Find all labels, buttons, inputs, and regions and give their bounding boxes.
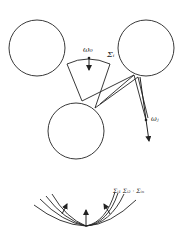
- wavefront-curves: [34, 192, 136, 226]
- label-sigma-series: Σᵢ₁ Σᵢ₂ · Σᵢₙ: [113, 188, 144, 194]
- circle-right-top: [118, 20, 174, 76]
- label-omega0: ω₀: [83, 46, 93, 54]
- normal-arrow-right: [104, 204, 110, 214]
- circle-bottom-center: [48, 103, 104, 159]
- label-omega-j: ωⱼ: [151, 116, 159, 123]
- omegaj-dot: [145, 119, 148, 122]
- circle-left-top: [9, 20, 65, 76]
- diagram-canvas: [0, 0, 189, 241]
- label-sigma-i: Σᵢ: [107, 51, 114, 59]
- omegaj-arrow: [140, 77, 149, 141]
- ray-1: [134, 75, 146, 120]
